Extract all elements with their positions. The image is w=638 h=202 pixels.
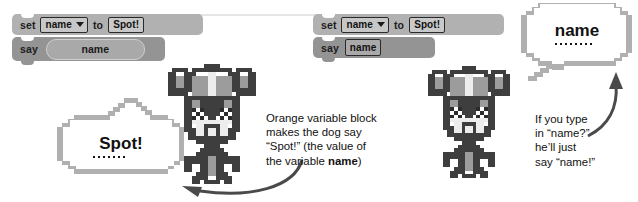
dog-sprite-right [428,66,510,182]
figure-root: set name to Spot! say name [0,0,638,202]
say-keyword: say [20,43,38,55]
block-notch-top [21,14,34,18]
block-notch-top [21,37,34,41]
variable-dropdown-label: name [45,20,72,30]
say-block[interactable]: say name [313,37,435,58]
chevron-down-icon [377,22,385,27]
left-caption-bold: name [328,155,358,167]
right-bubble-dots [555,43,592,45]
variable-dropdown-label: name [346,20,373,30]
variable-reporter-oval[interactable]: name [46,39,145,60]
set-keyword: set [321,19,336,31]
block-notch-top [322,14,335,18]
value-input[interactable]: Spot! [108,17,144,33]
right-caption: If you type in “name?” he’ll just say “n… [535,112,635,169]
value-input[interactable]: Spot! [409,17,445,33]
left-bubble-dots [93,156,125,158]
block-notch-bottom [322,58,335,62]
right-block-stack: set name to Spot! say name [313,14,504,58]
say-keyword: say [321,42,339,54]
right-bubble-text: name [516,21,638,41]
variable-dropdown[interactable]: name [40,17,88,33]
say-text-input[interactable]: name [345,39,382,56]
set-variable-block[interactable]: set name to Spot! [12,14,203,35]
set-variable-block[interactable]: set name to Spot! [313,14,504,35]
left-caption-tail: ) [358,155,362,167]
to-keyword: to [394,19,404,31]
to-keyword: to [93,19,103,31]
set-keyword: set [20,19,35,31]
dog-sprite-pixels [428,66,510,182]
block-notch-top [322,37,335,41]
chevron-down-icon [76,22,84,27]
left-block-stack: set name to Spot! say name [12,14,203,61]
block-notch-bottom [21,61,34,65]
variable-dropdown[interactable]: name [341,17,389,33]
left-caption: Orange variable block makes the dog say … [266,111,416,168]
say-block[interactable]: say name [12,37,165,61]
